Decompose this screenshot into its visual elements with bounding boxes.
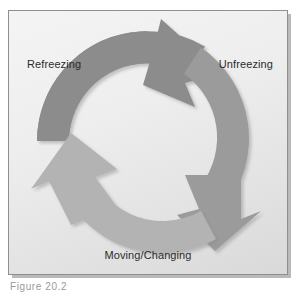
label-refreezing: Refreezing bbox=[27, 58, 81, 71]
figure-canvas: Refreezing Unfreezing Moving/Changing bbox=[9, 11, 287, 274]
moving-changing-arrow bbox=[31, 133, 216, 253]
figure-frame: Refreezing Unfreezing Moving/Changing bbox=[8, 10, 288, 275]
label-unfreezing: Unfreezing bbox=[219, 58, 273, 71]
change-cycle-diagram bbox=[9, 11, 287, 274]
figure-caption: Figure 20.2 bbox=[10, 281, 67, 292]
figure-block: Refreezing Unfreezing Moving/Changing Fi… bbox=[0, 0, 298, 292]
label-moving-changing: Moving/Changing bbox=[104, 249, 191, 262]
